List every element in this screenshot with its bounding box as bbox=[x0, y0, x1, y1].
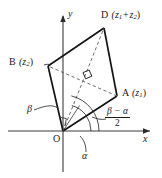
label-origin: O bbox=[53, 134, 60, 144]
label-point-a-paren: ) bbox=[143, 87, 146, 98]
angle-arc-alpha bbox=[86, 115, 91, 131]
label-point-d: D (z1 + z2) bbox=[101, 10, 140, 21]
side-db bbox=[48, 28, 104, 66]
half-angle-denominator: 2 bbox=[105, 119, 130, 129]
label-point-d-text: D bbox=[101, 9, 108, 20]
label-point-a: A (z1) bbox=[122, 88, 146, 99]
label-point-d-paren: ) bbox=[137, 9, 140, 20]
leader-b-point bbox=[44, 64, 51, 65]
label-point-a-text: A bbox=[122, 87, 129, 98]
label-point-b-paren: ) bbox=[30, 56, 33, 67]
half-angle-numerator: β − α bbox=[105, 107, 130, 117]
label-point-d-value: (z bbox=[111, 9, 119, 20]
side-bo bbox=[48, 66, 63, 131]
angle-arcs-group bbox=[63, 96, 99, 131]
label-point-d-plus: + bbox=[122, 9, 129, 20]
diagonal-od bbox=[63, 28, 104, 131]
side-ad bbox=[104, 28, 117, 96]
label-point-b-text: B bbox=[9, 56, 16, 67]
leader-lines-group bbox=[34, 64, 106, 152]
right-angle-icon bbox=[83, 70, 92, 79]
y-axis-arrowhead bbox=[60, 15, 65, 22]
label-angle-beta: β bbox=[27, 104, 32, 114]
label-x-axis: x bbox=[143, 134, 147, 144]
diagonal-ab bbox=[48, 66, 117, 96]
label-angle-alpha: α bbox=[82, 151, 87, 161]
figure-complex-parallelogram: D (z1 + z2) B (z2) A (z1) O x y α β β − … bbox=[0, 0, 162, 178]
label-point-b: B (z2) bbox=[9, 57, 33, 68]
leader-beta bbox=[34, 106, 58, 110]
label-y-axis: y bbox=[68, 9, 72, 19]
label-half-angle-fraction: β − α 2 bbox=[105, 107, 130, 129]
leader-bisector bbox=[92, 117, 106, 119]
